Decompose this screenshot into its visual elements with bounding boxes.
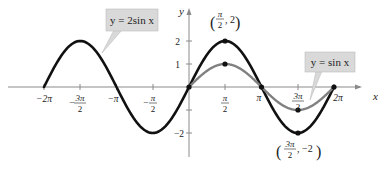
svg-text:): ) xyxy=(235,14,240,32)
y-axis-label: y xyxy=(178,5,184,17)
svg-text:π: π xyxy=(223,93,228,103)
callout-sin-label: y = sin x xyxy=(311,56,350,68)
svg-text:−: − xyxy=(143,98,148,108)
x-tick-neg2pi: −2π xyxy=(36,94,52,104)
sine-chart: y = 2sin x y = sin x y x 2 1 −2 −2π − 3π… xyxy=(0,0,384,170)
x-tick-negpi: −π xyxy=(107,94,118,104)
x-axis-arrow-icon xyxy=(355,85,362,90)
callout-2sin-label: y = 2sin x xyxy=(110,14,154,26)
svg-text:3π: 3π xyxy=(74,93,85,103)
svg-text:(: ( xyxy=(276,143,281,161)
label-max-point: ( π 2 , 2 ) xyxy=(210,9,240,32)
svg-text:3π: 3π xyxy=(292,91,303,101)
y-axis-arrow-icon xyxy=(187,8,192,15)
svg-text:): ) xyxy=(316,143,321,161)
x-axis-label: x xyxy=(372,90,378,102)
x-tick-pi2: π 2 xyxy=(221,93,229,114)
y-tick-1: 1 xyxy=(175,60,180,70)
svg-text:π: π xyxy=(218,9,223,19)
y-tick-neg2: −2 xyxy=(174,129,184,139)
svg-text:2: 2 xyxy=(78,104,83,114)
label-min-point: ( 3π 2 , −2 ) xyxy=(276,139,321,161)
x-tick-2pi: 2π xyxy=(333,93,343,103)
svg-text:π: π xyxy=(151,93,156,103)
svg-text:(: ( xyxy=(210,14,215,32)
svg-text:, 2: , 2 xyxy=(225,14,235,25)
x-tick-pi: π xyxy=(257,93,262,103)
svg-text:−: − xyxy=(69,98,74,108)
callout-2sin-x: y = 2sin x xyxy=(102,9,158,53)
svg-text:, −2: , −2 xyxy=(297,143,313,154)
y-tick-2: 2 xyxy=(175,37,180,47)
svg-text:2: 2 xyxy=(151,104,156,114)
svg-text:2: 2 xyxy=(218,20,223,30)
x-tick-neg3pi2: − 3π 2 xyxy=(69,93,86,114)
svg-text:2: 2 xyxy=(296,102,301,112)
svg-text:3π: 3π xyxy=(284,139,295,149)
svg-text:2: 2 xyxy=(223,104,228,114)
svg-text:2: 2 xyxy=(288,150,293,160)
x-tick-negpi2: − π 2 xyxy=(143,93,157,114)
